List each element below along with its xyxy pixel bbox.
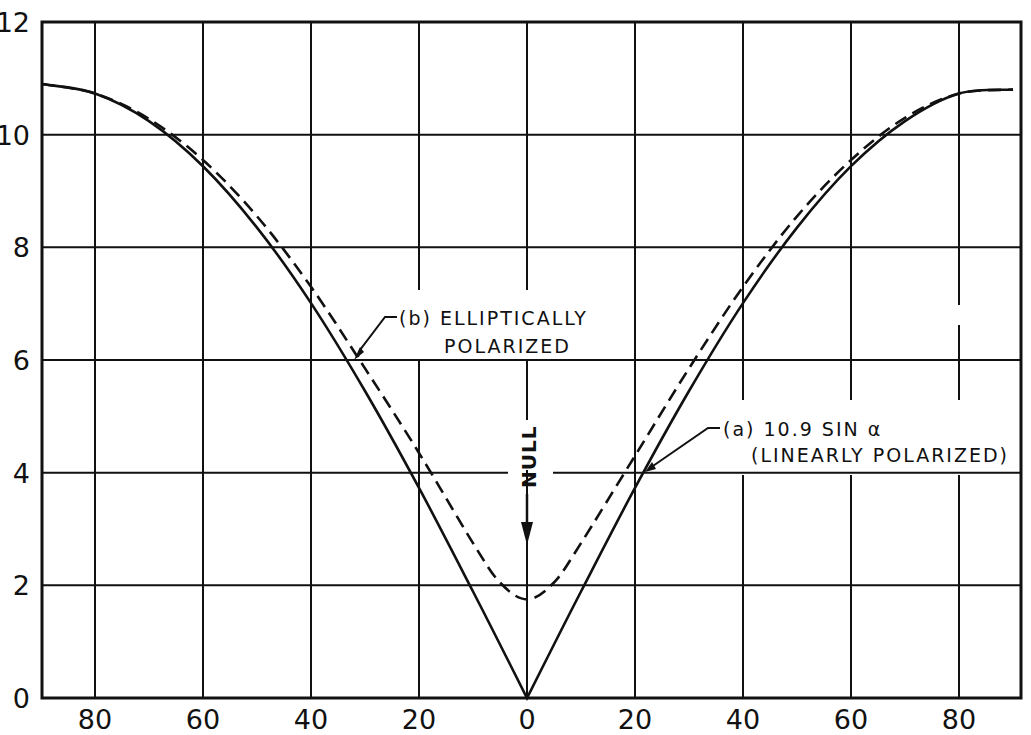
x-tick-label: 80 xyxy=(78,704,112,735)
null-arrow-icon xyxy=(521,522,533,545)
label-a-line2: (LINEARLY POLARIZED) xyxy=(751,444,1009,466)
label-b-line1: (b) ELLIPTICALLY xyxy=(399,307,588,329)
x-tick-label: 40 xyxy=(294,704,328,735)
y-tick-label: 8 xyxy=(13,232,30,263)
y-tick-label: 0 xyxy=(13,683,30,714)
x-tick-label: 20 xyxy=(402,704,436,735)
x-tick-label: 60 xyxy=(834,704,868,735)
label-a-line1: (a) 10.9 SIN α xyxy=(723,418,882,440)
grid-lines xyxy=(42,22,1021,698)
null-annotation: NULL xyxy=(517,426,541,545)
y-tick-label: 2 xyxy=(13,570,30,601)
x-axis-tick-labels: 80604020020406080 xyxy=(78,704,976,735)
null-label: NULL xyxy=(517,426,541,488)
x-tick-label: 60 xyxy=(186,704,220,735)
y-tick-label: 12 xyxy=(0,7,30,38)
x-tick-label: 40 xyxy=(726,704,760,735)
y-tick-label: 4 xyxy=(13,458,30,489)
x-tick-label: 20 xyxy=(618,704,652,735)
x-tick-label: 0 xyxy=(518,704,535,735)
polarization-null-chart: 024681012 80604020020406080 NULL (b) ELL… xyxy=(0,0,1031,735)
y-axis-tick-labels: 024681012 xyxy=(0,7,30,714)
label-a-annotation: (a) 10.9 SIN α (LINEARLY POLARIZED) xyxy=(645,418,1009,472)
y-tick-label: 6 xyxy=(13,345,30,376)
label-b-annotation: (b) ELLIPTICALLY POLARIZED xyxy=(354,307,588,360)
x-tick-label: 80 xyxy=(942,704,976,735)
label-b-line2: POLARIZED xyxy=(444,335,571,357)
y-tick-label: 10 xyxy=(0,120,30,151)
